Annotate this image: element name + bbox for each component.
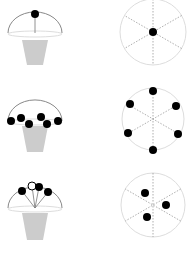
umbrella-dot-3-3 (44, 188, 52, 196)
umbrella-dot-3-2 (35, 183, 43, 191)
dome-arc-2 (8, 100, 62, 121)
pot-3 (22, 213, 48, 240)
pot-2 (22, 126, 48, 152)
dome-base-2 (8, 119, 62, 125)
wheel-dot-2-3 (172, 102, 180, 110)
umbrella-dot-2-4 (37, 113, 45, 121)
pot-1 (22, 40, 48, 65)
umbrella-dot-1-1 (31, 10, 39, 18)
wheel-dot-2-4 (124, 129, 132, 137)
wheel-dot-3-2 (162, 201, 170, 209)
wheel-dot-2-2 (126, 100, 134, 108)
umbrella-dot-3-1 (18, 187, 26, 195)
wheel-dot-3-1 (141, 189, 149, 197)
wheel-dot-2-5 (174, 130, 182, 138)
diagram-canvas (0, 0, 191, 260)
umbrella-dot-2-5 (43, 120, 51, 128)
umbrella-dot-2-6 (54, 117, 62, 125)
umbrella-dot-2-1 (7, 117, 15, 125)
wheel-dot-3-3 (143, 213, 151, 221)
open-dot-icon (28, 182, 36, 190)
umbrella-dot-2-3 (25, 120, 33, 128)
wheel-dot-2-6 (149, 146, 157, 154)
umbrella-dot-2-2 (17, 114, 25, 122)
wheel-dot-2-1 (149, 87, 157, 95)
dome-arc-3 (8, 187, 62, 208)
wheel-dot-1-1 (149, 28, 157, 36)
